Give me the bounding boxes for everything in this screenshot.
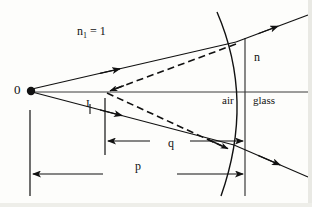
ray-lower-incident	[32, 92, 234, 145]
label-index-n1-value: = 1	[87, 24, 106, 38]
ray-upper-incident	[32, 42, 236, 89]
label-object-point: 0	[14, 83, 21, 96]
label-distance-q: q	[168, 137, 174, 149]
virtual-ray-lower-dashed	[107, 93, 222, 146]
page-edge-right	[308, 0, 312, 207]
optics-refraction-diagram: n1 = 1 n 0 air glass I q p	[0, 0, 312, 207]
label-index-n: n	[254, 51, 260, 63]
page-edge-bottom	[0, 203, 312, 207]
ray-lower-incident-arrow	[100, 110, 122, 116]
label-region-air: air	[222, 95, 234, 106]
label-distance-p: p	[135, 160, 141, 172]
ray-lower-refracted-arrow	[258, 155, 280, 165]
virtual-ray-upper-dashed	[112, 44, 236, 90]
label-region-glass: glass	[253, 95, 275, 106]
ray-upper-incident-arrow	[100, 69, 120, 74]
object-point-marker	[27, 87, 35, 95]
virtual-ray-upper-arrow	[110, 86, 124, 91]
ray-upper-refracted-arrow	[258, 26, 278, 34]
label-index-n1: n1 = 1	[77, 25, 106, 40]
label-image-point: I	[86, 98, 90, 109]
